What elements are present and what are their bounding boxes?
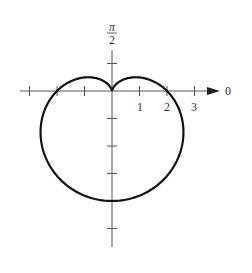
x-tick-label-2: 2 (164, 100, 170, 114)
arrow-right-icon (207, 87, 220, 95)
polar-axis-label: 0 (225, 84, 231, 98)
pi-over-2-numerator: π (109, 20, 116, 34)
x-tick-label-3: 3 (191, 100, 197, 114)
pi-over-2-denominator: 2 (109, 33, 115, 47)
polar-plot: 1 2 3 0 π 2 (0, 0, 252, 273)
x-tick-label-1: 1 (137, 100, 143, 114)
